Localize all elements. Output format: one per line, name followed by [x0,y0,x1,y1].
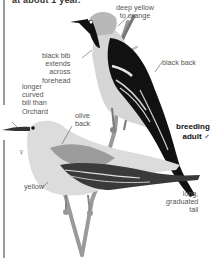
label-line: tail [166,206,198,214]
label-line: back [75,120,90,128]
label-bill: longer curved bill than Orchard [22,83,48,116]
title-line: adult ♂ [176,132,210,142]
label-head-color: deep yellow to orange [116,4,154,20]
female-symbol: ♀ [18,148,25,156]
label-line: to orange [116,12,154,20]
label-black-back: black back [162,59,196,67]
title-line: breeding [176,122,210,132]
label-olive-back: olive back [75,112,90,128]
label-tail: long, graduated tail [166,190,198,215]
label-yellow: yellow [24,183,44,191]
male-title: breeding adult ♂ [176,122,210,141]
label-bib: black bib extends across forehead [42,52,70,85]
label-line: Orchard [22,108,48,116]
